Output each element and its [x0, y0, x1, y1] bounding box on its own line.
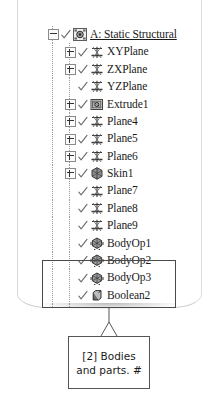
tree-item-label: Plane4 [107, 116, 138, 128]
plane-icon [89, 115, 104, 129]
expand-plus-icon[interactable] [65, 47, 76, 58]
tree-item-plane4[interactable]: Plane4 [18, 113, 202, 130]
checkmark-icon [78, 64, 88, 75]
tree-guide-line [52, 61, 53, 78]
tree-guide-line [52, 235, 53, 252]
plane-icon [89, 45, 104, 59]
plane-icon [89, 184, 104, 198]
tree-item-label: BodyOp2 [107, 255, 151, 267]
expand-plus-icon[interactable] [65, 151, 76, 162]
tree-item-plane6[interactable]: Plane6 [18, 148, 202, 165]
tree-guide-line [52, 217, 53, 234]
checkmark-icon [78, 168, 88, 179]
tree-item-label: A: Static Structural [90, 29, 177, 41]
tree-guide-line [69, 269, 70, 286]
tree-item-a-static-structural[interactable]: A: Static Structural [18, 26, 202, 43]
tree-item-plane5[interactable]: Plane5 [18, 130, 202, 147]
tree-guide-line [52, 130, 53, 147]
tree-item-label: Plane7 [107, 185, 138, 197]
body-operation-icon [89, 271, 104, 285]
plane-icon [89, 149, 104, 163]
tree-guide-line [69, 183, 70, 200]
tree-guide-line [52, 269, 53, 286]
project-outline-panel: A: Static Structural XYPlane ZXPlane YZP… [17, 0, 202, 308]
tree-guide-line [52, 148, 53, 165]
tree-item-plane7[interactable]: Plane7 [18, 183, 202, 200]
tree-guide-line [69, 287, 70, 304]
tree-guide-line [69, 235, 70, 252]
tree-item-bodyop3[interactable]: BodyOp3 [18, 269, 202, 286]
tree-item-label: Boolean2 [107, 290, 150, 302]
project-outline-tree[interactable]: A: Static Structural XYPlane ZXPlane YZP… [18, 26, 202, 308]
tree-guide-line [52, 165, 53, 182]
static-structural-icon [72, 28, 87, 42]
tree-guide-line [69, 217, 70, 234]
tree-guide-line [52, 113, 53, 130]
extrude-icon [89, 97, 104, 111]
checkmark-icon [61, 29, 71, 40]
tree-item-label: Plane6 [107, 151, 138, 163]
tree-item-xyplane[interactable]: XYPlane [18, 43, 202, 60]
skin-loft-icon [89, 167, 104, 181]
tree-item-label: SurfaceSk1 [107, 307, 159, 308]
tree-guide-line [69, 252, 70, 269]
tree-item-boolean2[interactable]: Boolean2 [18, 287, 202, 304]
tree-item-label: BodyOp3 [107, 272, 151, 284]
tree-item-extrude1[interactable]: Extrude1 [18, 96, 202, 113]
checkmark-icon [78, 81, 88, 92]
expand-plus-icon[interactable] [65, 307, 76, 308]
tree-item-plane8[interactable]: Plane8 [18, 200, 202, 217]
checkmark-icon [78, 220, 88, 231]
checkmark-icon [78, 203, 88, 214]
body-operation-icon [89, 254, 104, 268]
checkmark-icon [78, 290, 88, 301]
checkmark-icon [78, 307, 88, 308]
tree-guide-line [52, 96, 53, 113]
tree-item-label: XYPlane [107, 46, 148, 58]
tree-item-surfacesk1[interactable]: SurfaceSk1 [18, 304, 202, 308]
tree-item-zxplane[interactable]: ZXPlane [18, 61, 202, 78]
tree-item-plane9[interactable]: Plane9 [18, 217, 202, 234]
boolean-icon [89, 289, 104, 303]
tree-guide-line [52, 252, 53, 269]
tree-item-yzplane[interactable]: YZPlane [18, 78, 202, 95]
tree-item-label: Skin1 [107, 168, 133, 180]
tree-guide-line [69, 200, 70, 217]
tree-item-label: ZXPlane [107, 64, 147, 76]
tree-item-bodyop2[interactable]: BodyOp2 [18, 252, 202, 269]
checkmark-icon [78, 151, 88, 162]
collapse-minus-icon[interactable] [48, 29, 59, 40]
tree-guide-line [52, 78, 53, 95]
callout-line-2: and parts. # [76, 364, 142, 376]
callout-line-1: [2] Bodies [82, 350, 135, 362]
checkmark-icon [78, 116, 88, 127]
callout-box: [2] Bodies and parts. # [68, 336, 150, 389]
tree-item-label: Plane5 [107, 133, 138, 145]
checkmark-icon [78, 273, 88, 284]
tree-guide-line [69, 304, 70, 308]
plane-icon [89, 202, 104, 216]
tree-guide-line [52, 200, 53, 217]
plane-icon [89, 80, 104, 94]
expand-plus-icon[interactable] [65, 168, 76, 179]
tree-item-label: Plane9 [107, 220, 138, 232]
plane-icon [89, 219, 104, 233]
expand-plus-icon[interactable] [65, 134, 76, 145]
checkmark-icon [78, 99, 88, 110]
checkmark-icon [78, 47, 88, 58]
tree-guide-line [52, 43, 53, 60]
tree-item-bodyop1[interactable]: BodyOp1 [18, 235, 202, 252]
callout-text: [2] Bodies and parts. # [76, 349, 142, 377]
tree-item-skin1[interactable]: Skin1 [18, 165, 202, 182]
tree-item-label: Plane8 [107, 203, 138, 215]
expand-plus-icon[interactable] [65, 99, 76, 110]
expand-plus-icon[interactable] [65, 64, 76, 75]
tree-item-label: BodyOp1 [107, 238, 151, 250]
tree-item-label: YZPlane [107, 81, 147, 93]
expand-plus-icon[interactable] [65, 116, 76, 127]
checkmark-icon [78, 238, 88, 249]
tree-guide-line [52, 304, 53, 308]
plane-icon [89, 132, 104, 146]
surface-sketch-icon [89, 306, 104, 308]
tree-guide-line [52, 287, 53, 304]
